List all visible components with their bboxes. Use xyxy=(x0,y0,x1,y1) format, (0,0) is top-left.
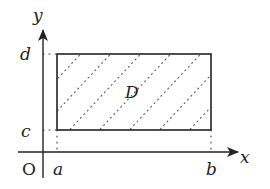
guide-lines xyxy=(43,54,211,152)
tick-label-a: a xyxy=(53,159,63,179)
y-axis-label: y xyxy=(32,5,43,25)
coordinate-diagram: y x O d c a b D xyxy=(0,0,270,189)
region-label: D xyxy=(124,82,139,102)
origin-label: O xyxy=(22,159,36,179)
x-axis-label: x xyxy=(240,147,250,167)
tick-label-b: b xyxy=(206,159,217,179)
tick-label-c: c xyxy=(21,121,31,141)
tick-label-d: d xyxy=(20,44,31,64)
